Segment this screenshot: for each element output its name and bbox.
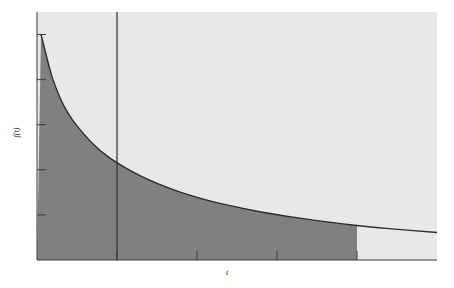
y-axis-label: f(t) — [12, 113, 21, 153]
x-axis-label: t — [0, 268, 454, 277]
chart-container: f(t) t — [0, 0, 454, 288]
decay-curve-plot — [0, 0, 454, 288]
